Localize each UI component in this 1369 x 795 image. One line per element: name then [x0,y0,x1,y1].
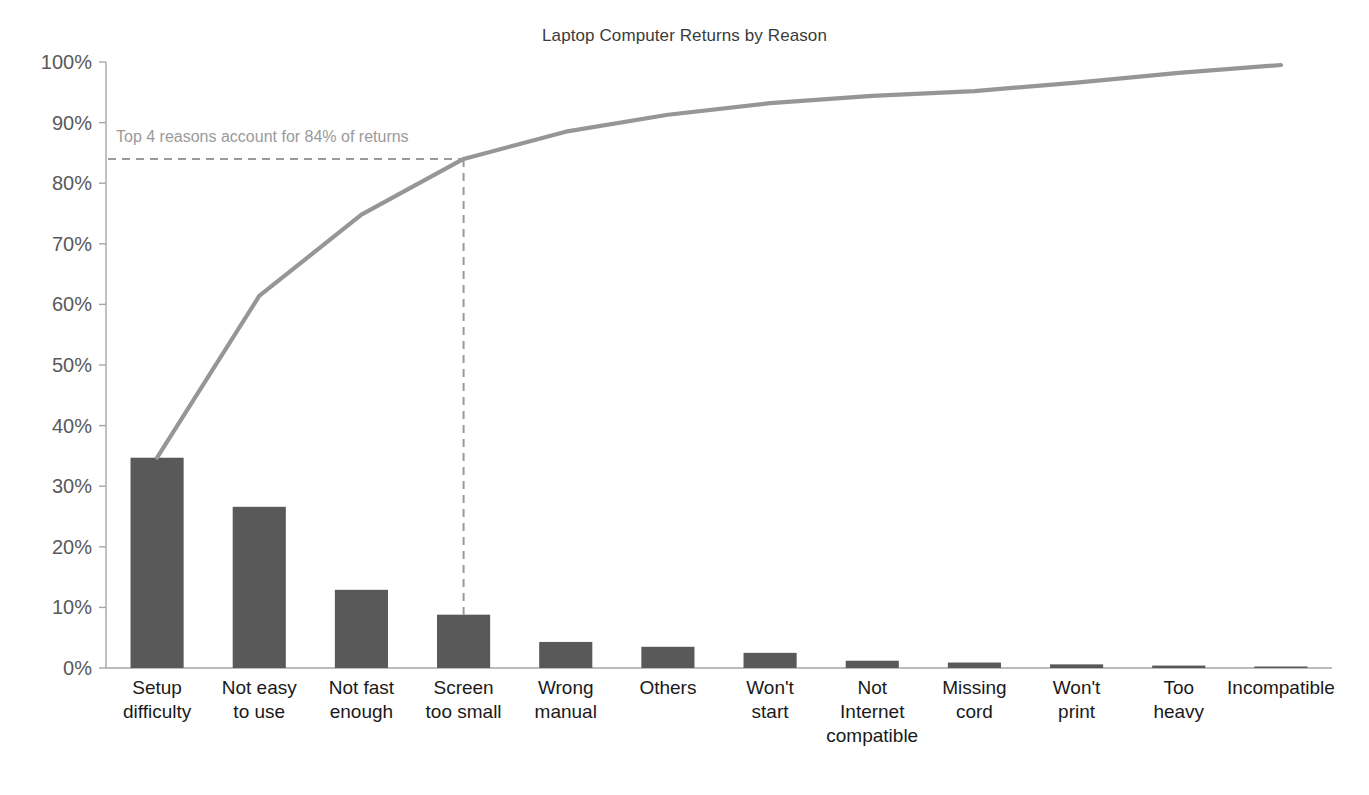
y-axis-tick-label: 100% [41,51,92,73]
x-axis-tick-label: Missingcord [942,677,1006,722]
bar [335,590,388,668]
y-axis-tick-label: 30% [52,475,92,497]
y-axis-tick-marks [99,62,106,668]
bar [539,642,592,668]
y-axis-tick-label: 20% [52,536,92,558]
pareto-chart: Laptop Computer Returns by Reason 0%10%2… [0,0,1369,795]
bar [846,661,899,668]
x-axis-tick-label: Won'tstart [746,677,794,722]
bar [641,647,694,668]
x-axis-tick-label: Wrongmanual [535,677,597,722]
bar [131,458,184,668]
threshold-annotation-label: Top 4 reasons account for 84% of returns [116,128,409,145]
bar [744,653,797,668]
x-axis-tick-label: Not easyto use [222,677,297,722]
y-axis-tick-label: 60% [52,293,92,315]
bar-series [131,458,1308,668]
y-axis-tick-label: 0% [63,657,92,679]
bar [1254,667,1307,669]
y-axis-tick-label: 80% [52,172,92,194]
x-axis-tick-label: Setupdifficulty [123,677,192,722]
y-axis-tick-labels: 0%10%20%30%40%50%60%70%80%90%100% [41,51,92,679]
chart-plot-area: 0%10%20%30%40%50%60%70%80%90%100% Top 4 … [0,0,1369,795]
x-axis-tick-label: NotInternetcompatible [826,677,918,746]
bar [1050,664,1103,668]
x-axis-tick-label: Won'tprint [1053,677,1101,722]
y-axis-tick-label: 50% [52,354,92,376]
x-axis-tick-label: Incompatible [1227,677,1335,698]
x-axis-tick-label: Not fastenough [329,677,395,722]
cumulative-line-series [157,65,1281,458]
x-axis-tick-label: Others [639,677,696,698]
y-axis-tick-label: 10% [52,596,92,618]
bar [233,507,286,668]
y-axis-tick-label: 70% [52,233,92,255]
x-axis-tick-label: Screentoo small [426,677,502,722]
x-axis-tick-label: Tooheavy [1153,677,1204,722]
bar [948,663,1001,668]
y-axis-tick-label: 90% [52,112,92,134]
x-axis-tick-labels: SetupdifficultyNot easyto useNot fasteno… [123,677,1335,746]
y-axis-tick-label: 40% [52,415,92,437]
bar [437,615,490,668]
bar [1152,666,1205,668]
